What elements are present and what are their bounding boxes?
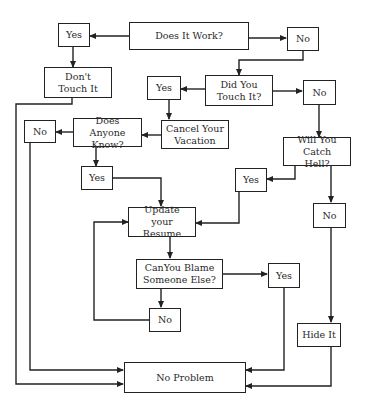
node-did-you-touch-it: Did You Touch It? bbox=[205, 75, 273, 106]
node-can-you-blame: CanYou Blame Someone Else? bbox=[136, 259, 223, 289]
node-yes-catch-hell: Yes bbox=[235, 168, 267, 192]
node-cancel-your-vacation: Cancel Your Vacation bbox=[161, 120, 229, 149]
node-yes-anyone: Yes bbox=[81, 166, 113, 190]
node-will-you-catch-hell: Will You Catch Hell? bbox=[283, 137, 351, 166]
node-dont-touch-it: Don't Touch It bbox=[44, 67, 112, 98]
node-no-works: No bbox=[287, 27, 319, 51]
node-no-anyone: No bbox=[24, 120, 56, 143]
node-yes-works: Yes bbox=[58, 23, 90, 47]
node-no-catch-hell: No bbox=[313, 203, 346, 228]
node-no-touched: No bbox=[303, 80, 336, 105]
node-update-your-resume: Update your Resume bbox=[128, 207, 196, 237]
node-hide-it: Hide It bbox=[297, 323, 341, 347]
node-yes-touched: Yes bbox=[147, 76, 181, 100]
node-does-anyone-know: Does Anyone Know? bbox=[73, 118, 142, 147]
node-no-problem: No Problem bbox=[124, 362, 246, 393]
node-no-blame: No bbox=[149, 308, 181, 332]
node-yes-blame: Yes bbox=[268, 263, 300, 288]
node-does-it-work: Does It Work? bbox=[129, 22, 249, 50]
